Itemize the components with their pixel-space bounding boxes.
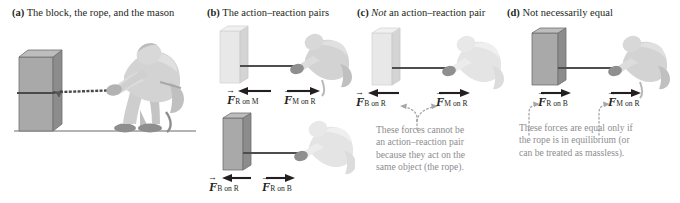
force-label-r-on-b: FR on B xyxy=(262,182,292,194)
force-subscript: M on R xyxy=(444,99,467,108)
panel-c: (c) Not an action–reaction pair xyxy=(355,0,505,203)
force-symbol: F xyxy=(227,93,235,107)
force-subscript: M on R xyxy=(292,97,315,106)
force-symbol: F xyxy=(356,95,364,109)
panel-a: (a) The block, the rope, and the mason xyxy=(0,0,205,203)
panel-b: (b) The action–reaction pairs xyxy=(205,0,355,203)
force-symbol: F xyxy=(538,95,546,109)
force-subscript: R on B xyxy=(270,184,292,193)
force-symbol: F xyxy=(262,180,270,194)
force-subscript: R on B xyxy=(546,99,568,108)
force-symbol: F xyxy=(284,93,292,107)
panel-d-caption: These forces are equal only if the rope … xyxy=(519,122,679,159)
block-shape xyxy=(532,28,566,85)
force-subscript: B on R xyxy=(217,184,239,193)
mason-figure-faded xyxy=(441,33,504,89)
force-label-r-on-b: FR on B xyxy=(538,97,568,109)
force-symbol: F xyxy=(436,95,444,109)
force-subscript: B on R xyxy=(364,99,386,108)
mason-figure-faded xyxy=(293,118,355,174)
force-arrow-left xyxy=(238,87,271,95)
block-shape-faded xyxy=(372,28,400,85)
force-label-m-on-r: FM on R xyxy=(284,95,316,107)
force-subscript: R on M xyxy=(235,97,258,106)
panel-a-scene xyxy=(0,0,205,203)
force-label-b-on-r: FB on R xyxy=(209,182,239,194)
mason-figure xyxy=(289,31,352,96)
force-label-r-on-m: FR on M xyxy=(227,95,259,107)
force-label-m-on-r: FM on R xyxy=(436,97,468,109)
force-arrow-left xyxy=(222,174,251,182)
force-arrow-left xyxy=(368,89,399,97)
block-shape-faded xyxy=(220,26,248,83)
force-label-m-on-r: FM on R xyxy=(608,97,640,109)
panel-d: (d) Not necessarily equal xyxy=(505,0,680,203)
block-shape xyxy=(19,50,62,131)
physics-figure-action-reaction: (a) The block, the rope, and the mason xyxy=(0,0,680,203)
force-symbol: F xyxy=(209,180,217,194)
mason-figure xyxy=(607,33,670,98)
force-subscript: M on R xyxy=(616,99,639,108)
block-shape xyxy=(223,113,251,170)
force-symbol: F xyxy=(608,95,616,109)
mason-figure xyxy=(105,40,184,132)
force-label-b-on-r: FB on R xyxy=(356,97,386,109)
panel-c-caption: These forces cannot be an action–reactio… xyxy=(376,124,511,174)
force-arrow-right xyxy=(266,174,295,182)
panel-b-bottom-scene xyxy=(222,113,355,182)
panel-d-scene xyxy=(505,0,680,203)
